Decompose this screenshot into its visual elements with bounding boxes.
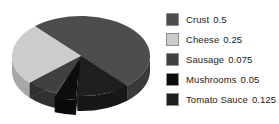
legend-item: Mushrooms0.05 [166, 71, 279, 87]
legend-label: Mushrooms [186, 74, 237, 85]
pie-chart-figure: Crust0.5Cheese0.25Sausage0.075Mushrooms0… [0, 0, 279, 124]
legend-swatch-icon [166, 13, 179, 26]
legend-value: 0.05 [241, 74, 260, 85]
legend-label: Tomato Sauce [186, 94, 248, 105]
legend-item: Tomato Sauce0.125 [166, 91, 279, 107]
legend-label: Cheese [186, 34, 219, 45]
legend-value: 0.25 [223, 34, 242, 45]
pie-chart-svg [0, 0, 165, 124]
legend-value: 0.5 [213, 14, 227, 25]
legend-swatch-icon [166, 93, 179, 106]
legend-value: 0.075 [228, 54, 252, 65]
legend-item: Crust0.5 [166, 11, 279, 27]
legend-swatch-icon [166, 53, 179, 66]
legend-label: Crust [186, 14, 209, 25]
chart-legend: Crust0.5Cheese0.25Sausage0.075Mushrooms0… [166, 11, 279, 111]
legend-value: 0.125 [252, 94, 276, 105]
legend-item: Sausage0.075 [166, 51, 279, 67]
legend-swatch-icon [166, 33, 179, 46]
legend-label: Sausage [186, 54, 224, 65]
legend-item: Cheese0.25 [166, 31, 279, 47]
pie-chart-plot-area [0, 0, 165, 124]
legend-swatch-icon [166, 73, 179, 86]
